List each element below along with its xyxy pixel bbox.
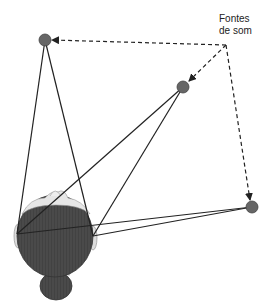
sound-sources-label: Fontes de som <box>219 13 252 37</box>
label-line-2: de som <box>219 25 252 37</box>
label-line-1: Fontes <box>219 13 252 25</box>
source-top-left <box>39 34 51 46</box>
sound-sources-diagram <box>0 0 277 302</box>
path-bottom-rightear <box>93 207 252 236</box>
head-top-view <box>14 191 97 300</box>
source-bottom-right <box>246 201 258 213</box>
path-mid-rightear <box>93 87 183 236</box>
path-mid-leftear <box>17 87 183 234</box>
source-middle-right <box>177 81 189 93</box>
arrow-to-middle-source <box>189 45 226 81</box>
arrow-to-bottom-source <box>226 45 250 200</box>
arrow-to-top-left-source <box>52 40 226 45</box>
